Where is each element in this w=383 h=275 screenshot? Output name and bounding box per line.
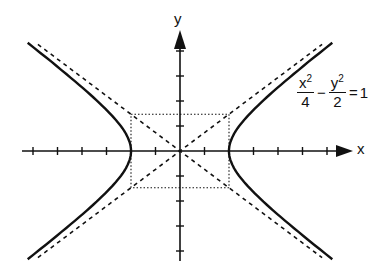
x-axis-arrow-icon [336, 145, 353, 157]
y-axis-label: y [174, 11, 182, 26]
y-axis-arrow-icon [174, 30, 186, 49]
minus-operator: − [317, 84, 326, 101]
x-denominator: 4 [301, 93, 309, 110]
y-denominator: 2 [333, 93, 341, 110]
x-exponent: 2 [307, 73, 313, 84]
equation-rhs: 1 [360, 84, 368, 101]
hyperbola-equation: x2 4 − y2 2 = 1 [296, 75, 368, 110]
y-exponent: 2 [338, 73, 344, 84]
hyperbola-diagram [0, 0, 383, 275]
fraction-x-term: x2 4 [297, 75, 314, 110]
equals-sign: = [349, 84, 358, 101]
x-axis-label: x [357, 141, 365, 156]
x-variable: x [299, 74, 307, 91]
fraction-y-term: y2 2 [329, 75, 346, 110]
